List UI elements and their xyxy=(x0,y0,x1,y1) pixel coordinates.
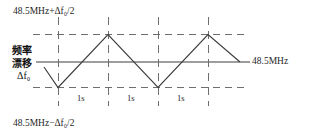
triangular-waveform xyxy=(44,35,240,88)
frequency-drift-diagram: 48.5MHz+Δf₀/2 48.5MHz−Δf₀/2 48.5MHz 频率 漂… xyxy=(0,0,309,139)
interval-label-1: 1s xyxy=(77,93,85,103)
lower-limit-label: 48.5MHz−Δf₀/2 xyxy=(13,119,74,129)
y-axis-title-symbol: Δf₀ xyxy=(12,70,52,83)
y-axis-title: 频率 漂移 Δf₀ xyxy=(12,45,52,83)
center-frequency-label: 48.5MHz xyxy=(252,57,288,67)
y-axis-title-line1: 频率 xyxy=(12,45,52,58)
interval-label-3: 1s xyxy=(177,93,185,103)
y-axis-title-line2: 漂移 xyxy=(12,58,52,71)
upper-limit-label: 48.5MHz+Δf₀/2 xyxy=(13,7,74,17)
interval-label-2: 1s xyxy=(127,93,135,103)
